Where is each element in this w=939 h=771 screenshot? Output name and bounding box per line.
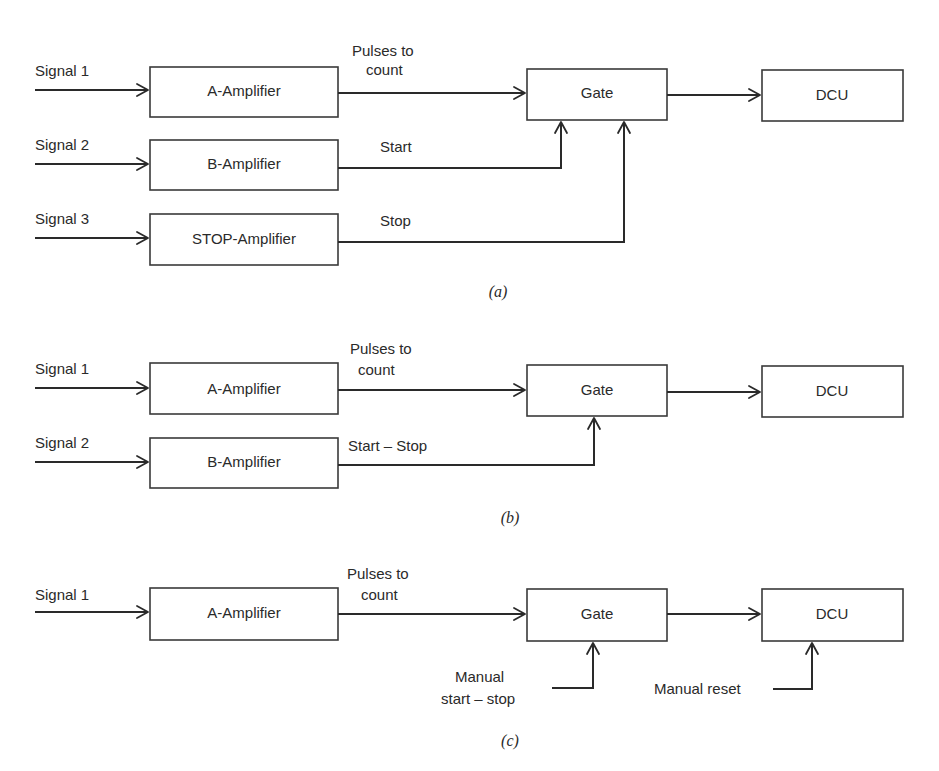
panel-c: Signal 1 A-Amplifier Pulses to count Gat… xyxy=(35,565,903,750)
input-label-signal-1: Signal 1 xyxy=(35,586,89,603)
block-label-gate: Gate xyxy=(581,84,614,101)
input-label-signal-1: Signal 1 xyxy=(35,360,89,377)
block-label-b-amplifier: B-Amplifier xyxy=(207,453,280,470)
block-label-dcu: DCU xyxy=(816,605,849,622)
manual-start-stop-wire xyxy=(552,643,593,688)
input-label-signal-2: Signal 2 xyxy=(35,136,89,153)
block-label-dcu: DCU xyxy=(816,86,849,103)
edge-label-start-stop: Start – Stop xyxy=(348,437,427,454)
manual-reset-wire xyxy=(773,643,812,689)
edge-label-stop: Stop xyxy=(380,212,411,229)
block-label-a-amplifier: A-Amplifier xyxy=(207,604,280,621)
edge-label-pulses-line1: Pulses to xyxy=(352,42,414,59)
block-label-a-amplifier: A-Amplifier xyxy=(207,82,280,99)
block-label-gate: Gate xyxy=(581,381,614,398)
caption-a: (a) xyxy=(489,283,508,301)
edge-label-manual-reset: Manual reset xyxy=(654,680,742,697)
edge-label-start: Start xyxy=(380,138,413,155)
edge-label-manual-line1: Manual xyxy=(455,668,504,685)
edge-label-pulses-line2: count xyxy=(358,361,396,378)
block-label-b-amplifier: B-Amplifier xyxy=(207,155,280,172)
start-wire xyxy=(338,122,561,168)
counter-block-diagrams: Signal 1 A-Amplifier Signal 2 B-Amplifie… xyxy=(0,0,939,771)
panel-b: Signal 1 A-Amplifier Signal 2 B-Amplifie… xyxy=(35,340,903,527)
block-label-gate: Gate xyxy=(581,605,614,622)
edge-label-pulses-line1: Pulses to xyxy=(350,340,412,357)
edge-label-pulses-line2: count xyxy=(366,61,404,78)
input-label-signal-1: Signal 1 xyxy=(35,62,89,79)
edge-label-manual-line2: start – stop xyxy=(441,690,515,707)
block-label-dcu: DCU xyxy=(816,382,849,399)
edge-label-pulses-line2: count xyxy=(361,586,399,603)
caption-b: (b) xyxy=(501,509,520,527)
input-label-signal-3: Signal 3 xyxy=(35,210,89,227)
edge-label-pulses-line1: Pulses to xyxy=(347,565,409,582)
panel-a: Signal 1 A-Amplifier Signal 2 B-Amplifie… xyxy=(35,42,903,301)
caption-c: (c) xyxy=(501,732,519,750)
input-label-signal-2: Signal 2 xyxy=(35,434,89,451)
block-label-a-amplifier: A-Amplifier xyxy=(207,380,280,397)
block-label-stop-amplifier: STOP-Amplifier xyxy=(192,230,296,247)
